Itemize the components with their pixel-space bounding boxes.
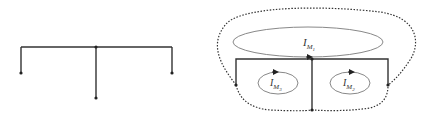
tree-leaf-right-node [170,71,173,74]
mesh-node-top [310,57,313,60]
tree-root-node [94,45,97,48]
tree-leaf-left-node [19,71,22,74]
mesh-node-bottom [310,108,313,111]
label-im1: IM1 [302,36,315,52]
mesh-loop-m1 [233,27,383,57]
right-mesh-diagram: IM1 IM3 IM2 [217,8,415,112]
tree-leaf-center-node [94,96,97,99]
label-im3: IM3 [269,77,282,92]
dotted-outer-boundary [217,8,415,85]
left-tree [19,45,173,99]
mesh-node-left [234,83,237,86]
diagram-canvas: IM1 IM3 IM2 [0,0,429,123]
mesh-node-right [386,83,389,86]
label-im2: IM2 [342,77,355,92]
